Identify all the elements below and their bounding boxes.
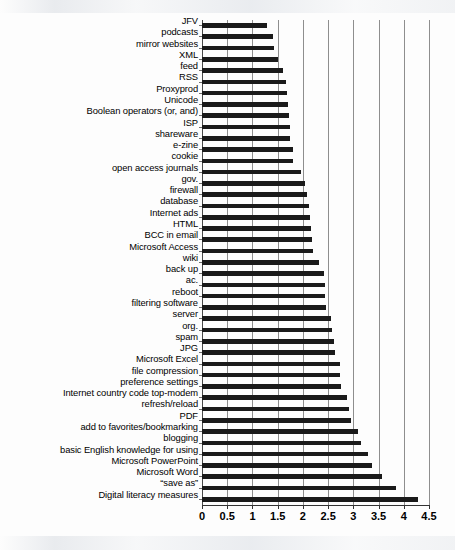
bar-row: Microsoft Access xyxy=(202,246,429,257)
bar xyxy=(202,226,311,231)
bar xyxy=(202,283,325,288)
bar xyxy=(202,204,309,209)
x-tick-4 xyxy=(404,505,405,509)
x-tick-1.5 xyxy=(278,505,279,509)
x-tick-label: 1 xyxy=(249,510,255,523)
category-label: Unicode xyxy=(164,94,198,105)
bar-row: Microsoft Excel xyxy=(202,358,429,369)
bar xyxy=(202,102,288,107)
bar-row: Boolean operators (or, and) xyxy=(202,110,429,121)
bar-row: filtering software xyxy=(202,302,429,313)
bar-row: e-zine xyxy=(202,144,429,155)
bar xyxy=(202,46,274,51)
category-label: Boolean operators (or, and) xyxy=(87,105,198,116)
bar-row: back up xyxy=(202,268,429,279)
bar xyxy=(202,384,341,389)
bar-row: shareware xyxy=(202,133,429,144)
category-label: podcasts xyxy=(161,26,198,37)
bar-row: podcasts xyxy=(202,31,429,42)
category-label: feed xyxy=(180,60,198,71)
bar-row: Unicode xyxy=(202,99,429,110)
x-axis-line xyxy=(202,505,430,506)
category-label: open access journals xyxy=(112,162,198,173)
x-tick-label: 3 xyxy=(350,510,356,523)
category-label: cookie xyxy=(172,150,199,161)
bar xyxy=(202,328,332,333)
x-tick-0 xyxy=(202,505,203,509)
bar xyxy=(202,237,312,242)
category-label: Microsoft Access xyxy=(129,241,198,252)
bar xyxy=(202,34,273,39)
bar xyxy=(202,463,372,468)
bar xyxy=(202,260,319,265)
bar-row: Internet ads xyxy=(202,212,429,223)
category-label: shareware xyxy=(155,128,198,139)
plot-area: JFVpodcastsmirror websitesXMLfeedRSSProx… xyxy=(202,20,429,505)
bar-row: Digital literacy measures xyxy=(202,494,429,505)
bar xyxy=(202,407,349,412)
bar xyxy=(202,147,293,152)
x-tick-3 xyxy=(353,505,354,509)
bar xyxy=(202,350,335,355)
category-label: HTML xyxy=(173,218,198,229)
bar xyxy=(202,159,293,164)
category-label: spam xyxy=(175,331,198,342)
category-label: Digital literacy measures xyxy=(98,489,198,500)
bar-row: Proxyprod xyxy=(202,88,429,99)
category-label: RSS xyxy=(179,71,198,82)
category-label: e-zine xyxy=(173,139,198,150)
x-tick-label: 2 xyxy=(300,510,306,523)
x-tick-label: 1.5 xyxy=(270,510,285,523)
category-label: “save as” xyxy=(160,477,198,488)
category-label: basic English knowledge for using xyxy=(60,444,198,455)
bar xyxy=(202,441,361,446)
category-label: refresh/reload xyxy=(142,398,198,409)
bar-row: JPG xyxy=(202,347,429,358)
x-tick-label: 2.5 xyxy=(320,510,335,523)
category-label: preference settings xyxy=(120,376,198,387)
x-tick-label: 0 xyxy=(199,510,205,523)
category-label: Internet ads xyxy=(150,207,198,218)
category-label: JPG xyxy=(180,342,198,353)
scan-artifact-top xyxy=(0,0,455,13)
bar xyxy=(202,192,307,197)
x-tick-2.5 xyxy=(328,505,329,509)
bar-row: feed xyxy=(202,65,429,76)
category-label: reboot xyxy=(172,286,198,297)
bar xyxy=(202,452,368,457)
bar xyxy=(202,429,358,434)
category-label: Proxyprod xyxy=(156,83,198,94)
category-label: back up xyxy=(166,263,198,274)
bar xyxy=(202,271,324,276)
category-label: filtering software xyxy=(132,297,198,308)
bar-row: Internet country code top-modem xyxy=(202,392,429,403)
bar-row: ac. xyxy=(202,279,429,290)
bar-row: blogging xyxy=(202,437,429,448)
bar xyxy=(202,125,290,130)
bar xyxy=(202,294,325,299)
category-label: blogging xyxy=(163,432,198,443)
bar xyxy=(202,249,313,254)
bar-row: RSS xyxy=(202,76,429,87)
x-tick-0.5 xyxy=(227,505,228,509)
chart-figure: JFVpodcastsmirror websitesXMLfeedRSSProx… xyxy=(0,0,455,550)
category-label: wiki xyxy=(183,252,198,263)
gridline-4.5 xyxy=(429,20,430,505)
category-label: firewall xyxy=(170,184,198,195)
bar-row: firewall xyxy=(202,189,429,200)
bar xyxy=(202,23,267,28)
category-label: Microsoft Word xyxy=(137,466,198,477)
bar xyxy=(202,136,290,141)
bar xyxy=(202,418,351,423)
bar-row: XML xyxy=(202,54,429,65)
bar-row: cookie xyxy=(202,155,429,166)
x-tick-4.5 xyxy=(429,505,430,509)
bar xyxy=(202,80,286,85)
bar xyxy=(202,91,287,96)
bar xyxy=(202,373,340,378)
x-tick-label: 4 xyxy=(401,510,407,523)
bar xyxy=(202,362,340,367)
bar-row: add to favorites/bookmarking xyxy=(202,426,429,437)
category-label: Microsoft PowerPoint xyxy=(111,455,198,466)
bar-row: server xyxy=(202,313,429,324)
